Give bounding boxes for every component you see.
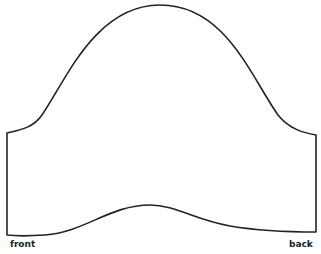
sleeve-outline (0, 0, 321, 254)
back-label: back (289, 239, 313, 249)
sleeve-outline-path (7, 5, 316, 236)
front-label: front (10, 239, 35, 249)
sleeve-pattern-diagram: front back (0, 0, 321, 254)
